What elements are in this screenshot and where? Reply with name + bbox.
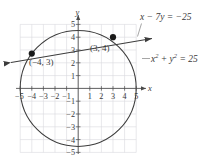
circle-equation-label: x2 + y2 = 25	[151, 55, 198, 65]
svg-text:5: 5	[134, 92, 138, 101]
line-equation-label: x − 7y = −25	[140, 13, 191, 23]
svg-text:−3: −3	[66, 123, 75, 132]
svg-text:3: 3	[71, 46, 75, 55]
svg-text:−4: −4	[27, 92, 36, 101]
svg-text:1: 1	[88, 92, 92, 101]
line-label-leader	[138, 24, 142, 37]
svg-text:5: 5	[71, 20, 75, 29]
svg-text:4: 4	[123, 92, 127, 101]
y-axis-label: y	[75, 7, 80, 17]
svg-text:−4: −4	[66, 136, 75, 145]
svg-text:−3: −3	[39, 92, 48, 101]
svg-text:2: 2	[99, 92, 103, 101]
svg-text:2: 2	[71, 59, 75, 68]
point-label-b: (3, 4)	[90, 44, 110, 53]
svg-text:3: 3	[111, 92, 115, 101]
svg-text:−2: −2	[66, 110, 75, 119]
point-marker-a	[29, 51, 35, 57]
coordinate-plane-graph: −5 −4 −3 −2 −1 1 2 3 4 5 5 4 3 2 1 −1 −2…	[0, 0, 209, 159]
svg-text:−1: −1	[66, 97, 75, 106]
x-tick-labels: −5 −4 −3 −2 −1 1 2 3 4 5	[15, 92, 138, 101]
point-label-a: (−4, 3)	[29, 58, 54, 67]
svg-text:4: 4	[71, 33, 75, 42]
point-marker-b	[110, 34, 116, 40]
svg-text:−5: −5	[66, 148, 75, 157]
svg-text:1: 1	[71, 72, 75, 81]
axes	[16, 15, 146, 154]
svg-text:−2: −2	[51, 92, 60, 101]
x-axis-label: x	[147, 83, 152, 93]
svg-text:−5: −5	[15, 92, 24, 101]
figure-container: −5 −4 −3 −2 −1 1 2 3 4 5 5 4 3 2 1 −1 −2…	[0, 0, 209, 159]
